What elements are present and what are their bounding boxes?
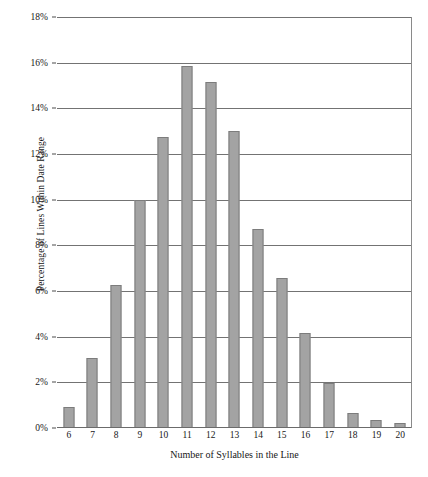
y-axis-tick-mark [52, 199, 56, 200]
y-axis-tick-labels: 0%2%4%6%8%10%12%14%16%18% [0, 0, 52, 477]
bar [253, 229, 264, 428]
plot-right-border [411, 17, 412, 428]
y-axis-tick-mark [52, 245, 56, 246]
y-axis-tick-mark [52, 291, 56, 292]
y-axis-tick-label: 8% [35, 240, 48, 250]
x-axis-tick-label: 9 [137, 430, 142, 440]
bar [324, 383, 335, 428]
x-axis-tick-label: 12 [206, 430, 216, 440]
bar-slot [223, 17, 247, 428]
plot-area [57, 17, 412, 428]
x-axis-tick-label: 16 [301, 430, 311, 440]
caption-sliver [8, 470, 420, 477]
x-axis-tick-label: 19 [372, 430, 382, 440]
bar-series [57, 17, 412, 428]
bar [87, 358, 98, 428]
bar [205, 82, 216, 428]
y-axis-tick-mark [52, 336, 56, 337]
bar [63, 407, 74, 428]
bar-slot [128, 17, 152, 428]
bar-slot [152, 17, 176, 428]
bar-slot [175, 17, 199, 428]
y-axis-tick-mark [52, 154, 56, 155]
bar-slot [294, 17, 318, 428]
y-axis-tick-mark [52, 108, 56, 109]
x-axis-tick-label: 11 [183, 430, 192, 440]
x-axis-tick-label: 18 [348, 430, 358, 440]
bar-slot [270, 17, 294, 428]
bar-slot [388, 17, 412, 428]
bar [229, 131, 240, 428]
y-axis-tick-mark [52, 428, 56, 429]
x-axis-tick-label: 8 [114, 430, 119, 440]
x-axis-tick-label: 10 [159, 430, 169, 440]
y-axis-tick-label: 6% [35, 286, 48, 296]
y-axis-tick-label: 4% [35, 332, 48, 342]
bar [300, 333, 311, 428]
y-axis-tick-label: 12% [31, 149, 48, 159]
bar-slot [104, 17, 128, 428]
y-axis-tick-label: 16% [31, 58, 48, 68]
bar [276, 278, 287, 428]
x-axis-line [57, 427, 412, 428]
x-axis-tick-label: 7 [90, 430, 95, 440]
bar-slot [246, 17, 270, 428]
bar [182, 66, 193, 428]
bar [111, 285, 122, 428]
bar-slot [81, 17, 105, 428]
bar [158, 137, 169, 428]
x-axis-tick-label: 17 [324, 430, 334, 440]
y-axis-tick-label: 0% [35, 423, 48, 433]
y-axis-tick-label: 14% [31, 103, 48, 113]
bar [347, 413, 358, 428]
y-axis-tick-label: 10% [31, 195, 48, 205]
bar-slot [365, 17, 389, 428]
x-axis-tick-label: 14 [253, 430, 263, 440]
bar-slot [199, 17, 223, 428]
bar-slot [317, 17, 341, 428]
bar-slot [341, 17, 365, 428]
y-axis-tick-mark [52, 17, 56, 18]
x-axis-tick-label: 15 [277, 430, 287, 440]
y-axis-tick-label: 2% [35, 377, 48, 387]
y-axis-tick-label: 18% [31, 12, 48, 22]
x-axis-tick-label: 20 [395, 430, 405, 440]
bar-chart-figure: Percentage of Lines Within Date Range 0%… [0, 0, 428, 477]
y-axis-tick-mark [52, 382, 56, 383]
x-axis-tick-labels: 67891011121314151617181920 [57, 430, 412, 446]
bar [134, 200, 145, 428]
x-axis-tick-label: 6 [66, 430, 71, 440]
y-axis-tick-mark [52, 62, 56, 63]
bar-slot [57, 17, 81, 428]
x-axis-tick-label: 13 [230, 430, 240, 440]
x-axis-title: Number of Syllables in the Line [57, 449, 412, 460]
